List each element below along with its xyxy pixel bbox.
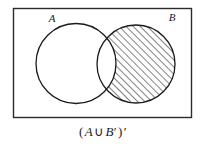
caption-outer-prime: ′	[124, 124, 127, 139]
union-operator-icon: ∪	[93, 124, 105, 139]
caption-close-paren: )	[117, 124, 124, 139]
caption-left-set: A	[85, 124, 93, 139]
set-label-b: B	[169, 11, 176, 23]
venn-diagram-figure: A B (A∪B′)′	[0, 0, 205, 153]
figure-caption: (A∪B′)′	[0, 124, 205, 140]
caption-right-set: B	[105, 124, 113, 139]
caption-open-paren: (	[78, 124, 85, 139]
set-label-a: A	[48, 12, 56, 24]
